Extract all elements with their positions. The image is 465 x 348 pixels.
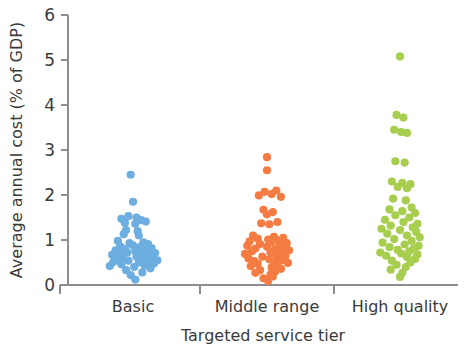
data-point <box>385 205 393 213</box>
data-point <box>257 219 265 227</box>
data-point <box>120 230 128 238</box>
x-axis-tick-labels: BasicMiddle rangeHigh quality <box>112 297 448 316</box>
y-tick-label: 1 <box>44 230 55 250</box>
x-category-label-high-quality: High quality <box>352 297 449 316</box>
data-point <box>387 266 395 274</box>
x-axis-title: Targeted service tier <box>180 326 346 345</box>
data-point <box>265 220 273 228</box>
series-middle-range <box>241 153 293 285</box>
series-high-quality <box>376 52 424 281</box>
x-axis-tickmarks <box>60 285 334 294</box>
y-axis-tick-labels: 0123456 <box>44 5 55 295</box>
data-point <box>273 218 281 226</box>
data-point <box>396 52 404 60</box>
data-point <box>277 193 285 201</box>
y-axis-tickmarks <box>61 15 68 285</box>
x-category-label-middle-range: Middle range <box>215 297 319 316</box>
series-basic <box>106 171 162 284</box>
data-point <box>394 183 402 191</box>
data-point <box>263 153 271 161</box>
data-point <box>263 166 271 174</box>
data-point <box>391 211 399 219</box>
data-point <box>379 239 387 247</box>
data-point <box>399 114 407 122</box>
y-tick-label: 5 <box>44 50 55 70</box>
data-point <box>381 216 389 224</box>
data-point <box>268 190 276 198</box>
data-point <box>416 233 424 241</box>
data-point <box>284 259 292 267</box>
data-point <box>247 262 255 270</box>
y-tick-label: 4 <box>44 95 55 115</box>
data-point <box>131 220 139 228</box>
data-point <box>264 277 272 285</box>
y-tick-label: 3 <box>44 140 55 160</box>
data-point <box>389 195 397 203</box>
data-point <box>401 159 409 167</box>
data-point <box>385 243 393 251</box>
data-point <box>255 191 263 199</box>
data-point <box>130 263 138 271</box>
data-point <box>263 210 271 218</box>
data-point <box>398 207 406 215</box>
data-point <box>401 240 409 248</box>
data-point <box>146 264 154 272</box>
x-category-label-basic: Basic <box>112 297 154 316</box>
data-point <box>399 218 407 226</box>
data-point <box>127 171 135 179</box>
data-point <box>383 230 391 238</box>
data-point <box>390 126 398 134</box>
y-tick-label: 2 <box>44 185 55 205</box>
data-point <box>390 235 398 243</box>
data-point <box>251 269 259 277</box>
data-point <box>124 257 132 265</box>
data-point <box>408 237 416 245</box>
data-point <box>402 196 410 204</box>
scatter-plot: 0123456 BasicMiddle rangeHigh quality Av… <box>0 0 465 348</box>
data-point <box>121 219 129 227</box>
y-tick-label: 6 <box>44 5 55 25</box>
y-tick-label: 0 <box>44 275 55 295</box>
data-point <box>396 226 404 234</box>
data-point <box>106 262 114 270</box>
data-point <box>396 273 404 281</box>
data-point <box>403 129 411 137</box>
y-axis-title: Average annual cost (% of GDP) <box>7 22 26 278</box>
data-points-layer <box>106 52 424 285</box>
data-point <box>129 198 137 206</box>
data-point <box>131 276 139 284</box>
data-point <box>138 268 146 276</box>
data-point <box>403 184 411 192</box>
data-point <box>135 231 143 239</box>
chart-figure: 0123456 BasicMiddle rangeHigh quality Av… <box>0 0 465 348</box>
data-point <box>391 157 399 165</box>
data-point <box>387 222 395 230</box>
data-point <box>142 217 150 225</box>
